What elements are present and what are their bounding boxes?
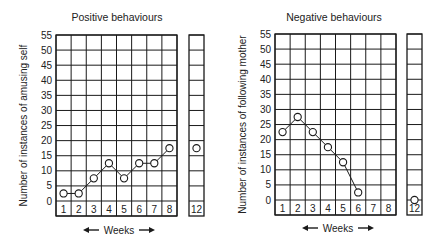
y-tick-label: 0 bbox=[46, 196, 52, 207]
y-tick-label: 15 bbox=[41, 150, 53, 161]
positive-behaviours-chart: Positive behavioursNumber of instances o… bbox=[18, 11, 204, 236]
y-tick-label: 30 bbox=[260, 104, 272, 115]
y-tick-label: 25 bbox=[41, 120, 53, 131]
week-label: 2 bbox=[76, 204, 82, 215]
week-label: 2 bbox=[295, 203, 301, 214]
y-tick-label: 10 bbox=[260, 164, 272, 175]
week-label: 12 bbox=[191, 204, 203, 215]
svg-text:Weeks: Weeks bbox=[323, 223, 353, 234]
data-point bbox=[309, 128, 316, 135]
data-point bbox=[294, 113, 301, 120]
week-label: 8 bbox=[386, 203, 392, 214]
y-tick-label: 45 bbox=[260, 59, 272, 70]
y-axis-label: Number of instances of following mother bbox=[237, 35, 248, 214]
data-point bbox=[90, 175, 97, 182]
y-tick-label: 30 bbox=[41, 105, 53, 116]
week-label: 7 bbox=[371, 203, 377, 214]
y-tick-label: 35 bbox=[260, 89, 272, 100]
y-tick-label: 50 bbox=[41, 45, 53, 56]
grid bbox=[275, 34, 396, 215]
week-label: 6 bbox=[136, 204, 142, 215]
week-label: 3 bbox=[310, 203, 316, 214]
data-point bbox=[279, 128, 286, 135]
y-tick-label: 15 bbox=[260, 149, 272, 160]
data-point bbox=[166, 145, 173, 152]
y-tick-label: 40 bbox=[41, 75, 53, 86]
svg-text:Weeks: Weeks bbox=[104, 225, 134, 236]
y-tick-label: 50 bbox=[260, 44, 272, 55]
data-point bbox=[324, 144, 331, 151]
data-point bbox=[411, 196, 418, 203]
y-tick-label: 20 bbox=[260, 134, 272, 145]
grid bbox=[56, 35, 177, 216]
y-tick-label: 10 bbox=[41, 165, 53, 176]
y-tick-label: 35 bbox=[41, 90, 53, 101]
week-12-column bbox=[407, 34, 422, 215]
data-point bbox=[136, 160, 143, 167]
week-label: 3 bbox=[91, 204, 97, 215]
week-label: 4 bbox=[106, 204, 112, 215]
data-point bbox=[339, 159, 346, 166]
week-label: 8 bbox=[167, 204, 173, 215]
y-tick-label: 55 bbox=[41, 30, 53, 41]
chart-title: Negative behaviours bbox=[286, 11, 382, 23]
negative-behaviours-chart: Negative behavioursNumber of instances o… bbox=[237, 11, 422, 234]
week-label: 12 bbox=[409, 203, 421, 214]
x-axis-label: Weeks bbox=[83, 225, 155, 236]
data-point bbox=[120, 175, 127, 182]
y-tick-label: 0 bbox=[265, 195, 271, 206]
week-label: 7 bbox=[152, 204, 158, 215]
week-label: 5 bbox=[340, 203, 346, 214]
x-axis-label: Weeks bbox=[302, 223, 374, 234]
data-point bbox=[355, 189, 362, 196]
data-point bbox=[193, 145, 200, 152]
week-label: 1 bbox=[61, 204, 67, 215]
y-tick-label: 40 bbox=[260, 74, 272, 85]
data-point bbox=[105, 160, 112, 167]
data-point bbox=[75, 190, 82, 197]
week-12-column bbox=[189, 35, 204, 216]
data-point bbox=[60, 190, 67, 197]
week-label: 1 bbox=[280, 203, 286, 214]
y-tick-label: 25 bbox=[260, 119, 272, 130]
data-series bbox=[279, 113, 418, 203]
chart-title: Positive behaviours bbox=[71, 11, 162, 23]
y-tick-label: 45 bbox=[41, 60, 53, 71]
y-tick-label: 55 bbox=[260, 29, 272, 40]
y-tick-label: 5 bbox=[265, 179, 271, 190]
week-label: 4 bbox=[325, 203, 331, 214]
y-tick-label: 20 bbox=[41, 135, 53, 146]
week-label: 6 bbox=[355, 203, 361, 214]
data-point bbox=[151, 160, 158, 167]
y-tick-label: 5 bbox=[46, 180, 52, 191]
y-axis-label: Number of instances of amusing self bbox=[18, 44, 29, 206]
behaviour-charts: Positive behavioursNumber of instances o… bbox=[0, 0, 444, 252]
week-label: 5 bbox=[121, 204, 127, 215]
